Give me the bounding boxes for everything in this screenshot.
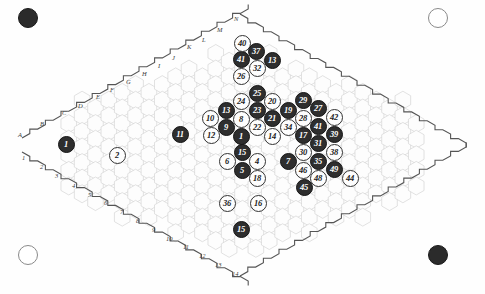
stone-black-15-26[interactable]: 15	[233, 221, 250, 238]
stone-white-28-33[interactable]: 28	[295, 110, 312, 127]
bottom-right-marker	[428, 245, 448, 265]
stone-black-19-30[interactable]: 19	[280, 102, 297, 119]
stone-black-21-28[interactable]: 21	[264, 110, 281, 127]
edge-label-letter-N: N	[234, 16, 238, 23]
edge-label-letter-G: G	[126, 79, 131, 86]
stone-black-11-2[interactable]: 11	[172, 126, 189, 143]
top-right-marker	[428, 8, 448, 28]
stone-black-29-32[interactable]: 29	[295, 92, 312, 109]
stone-white-42-44[interactable]: 42	[326, 109, 343, 126]
edge-label-number-9: 9	[152, 227, 155, 234]
stone-black-9-6[interactable]: 9	[218, 119, 235, 136]
edge-label-number-5: 5	[88, 192, 91, 199]
stone-white-34-31[interactable]: 34	[280, 119, 297, 136]
stone-white-26-10[interactable]: 26	[233, 68, 250, 85]
stone-black-31-41[interactable]: 31	[310, 135, 327, 152]
stone-black-17-34[interactable]: 17	[295, 127, 312, 144]
edge-label-number-10: 10	[166, 236, 173, 243]
stone-white-14-29[interactable]: 14	[264, 128, 281, 145]
stone-black-25-16[interactable]: 25	[249, 85, 266, 102]
edge-label-number-6: 6	[104, 200, 107, 207]
stone-white-44-48[interactable]: 44	[342, 170, 359, 187]
stone-black-7-38[interactable]: 7	[280, 153, 297, 170]
stone-black-13-14[interactable]: 13	[264, 52, 281, 69]
stone-black-1-7[interactable]: 1	[233, 128, 250, 145]
edge-label-number-4: 4	[72, 183, 75, 190]
stone-black-23-17[interactable]: 23	[249, 102, 266, 119]
stone-black-1-0[interactable]: 1	[58, 136, 75, 153]
stone-white-30-35[interactable]: 30	[295, 144, 312, 161]
stone-black-37-13[interactable]: 37	[248, 43, 265, 60]
stone-white-10-3[interactable]: 10	[202, 110, 219, 127]
stone-white-8-8[interactable]: 8	[233, 111, 250, 128]
edge-label-number-3: 3	[55, 173, 58, 180]
edge-label-number-11: 11	[183, 244, 189, 251]
stone-black-49-47[interactable]: 49	[326, 161, 343, 178]
stone-black-13-5[interactable]: 13	[218, 102, 235, 119]
edge-label-number-7: 7	[120, 209, 123, 216]
edge-label-letter-F: F	[110, 87, 114, 94]
edge-label-letter-C: C	[62, 110, 66, 117]
bottom-left-marker	[18, 245, 38, 265]
hex-board-diagram: ABCDEFGHIJKLMN1234567891011121314 121110…	[0, 0, 485, 294]
stone-black-15-19[interactable]: 15	[234, 144, 251, 161]
edge-label-number-13: 13	[215, 262, 222, 269]
stone-black-5-20[interactable]: 5	[234, 162, 251, 179]
stone-white-38-46[interactable]: 38	[326, 144, 343, 161]
edge-label-letter-M: M	[217, 27, 222, 34]
stone-black-41-11[interactable]: 41	[233, 51, 250, 68]
stone-white-20-27[interactable]: 20	[264, 93, 281, 110]
edge-label-letter-L: L	[202, 37, 206, 44]
edge-label-letter-I: I	[158, 63, 160, 70]
stone-black-27-39[interactable]: 27	[310, 100, 327, 117]
stone-white-6-21[interactable]: 6	[219, 153, 236, 170]
edge-label-letter-H: H	[142, 71, 147, 78]
stone-white-4-22[interactable]: 4	[249, 153, 266, 170]
edge-label-number-12: 12	[199, 253, 206, 260]
edge-label-number-14: 14	[232, 271, 239, 278]
stone-white-24-9[interactable]: 24	[233, 93, 250, 110]
stone-white-16-25[interactable]: 16	[250, 195, 267, 212]
stone-white-2-1[interactable]: 2	[109, 147, 126, 164]
edge-label-number-2: 2	[40, 164, 43, 171]
edge-label-letter-B: B	[40, 121, 44, 128]
edge-label-letter-E: E	[96, 94, 100, 101]
stone-white-18-23[interactable]: 18	[249, 170, 266, 187]
edge-label-letter-K: K	[187, 44, 191, 51]
stone-black-35-42[interactable]: 35	[310, 153, 327, 170]
edge-label-letter-D: D	[78, 103, 83, 110]
stone-black-41-40[interactable]: 41	[310, 118, 327, 135]
stone-black-39-45[interactable]: 39	[326, 126, 343, 143]
edge-label-number-8: 8	[136, 218, 139, 225]
stone-white-48-43[interactable]: 48	[310, 170, 327, 187]
stone-white-36-24[interactable]: 36	[219, 195, 236, 212]
edge-label-number-1: 1	[22, 155, 25, 162]
edge-label-letter-A: A	[18, 132, 22, 139]
stone-white-46-36[interactable]: 46	[295, 162, 312, 179]
stone-white-22-18[interactable]: 22	[249, 119, 266, 136]
stone-white-32-15[interactable]: 32	[249, 60, 266, 77]
stone-white-12-4[interactable]: 12	[203, 127, 220, 144]
edge-label-letter-J: J	[172, 55, 175, 62]
top-left-marker	[18, 8, 38, 28]
